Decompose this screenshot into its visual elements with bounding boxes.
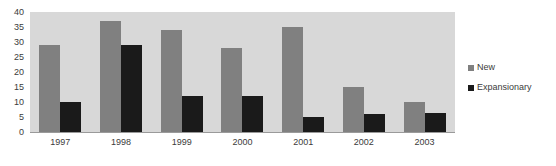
bar-group [152, 12, 212, 132]
x-axis-tick-label: 1999 [152, 136, 212, 148]
y-axis-tick-label: 5 [0, 113, 24, 122]
legend: NewExpansionary [468, 63, 556, 103]
x-axis-tick-label: 2003 [395, 136, 455, 148]
bar[interactable] [242, 96, 263, 132]
x-axis: 1997199819992000200120022003 [30, 136, 455, 154]
bar[interactable] [282, 27, 303, 132]
x-axis-tick-label: 1997 [30, 136, 90, 148]
bar[interactable] [303, 117, 324, 132]
bar-group [395, 12, 455, 132]
y-axis-tick-label: 15 [0, 83, 24, 92]
bar-group [91, 12, 151, 132]
x-axis-tick-label: 1998 [91, 136, 151, 148]
x-axis-tick-label: 2000 [212, 136, 272, 148]
y-axis-tick-label: 10 [0, 98, 24, 107]
bar-chart: 0510152025303540 19971998199920002001200… [0, 0, 556, 166]
x-axis-baseline [30, 132, 455, 133]
y-axis-tick-label: 30 [0, 38, 24, 47]
legend-entry[interactable]: Expansionary [468, 83, 556, 92]
plot-area [30, 12, 455, 132]
bar[interactable] [60, 102, 81, 132]
bar[interactable] [404, 102, 425, 132]
bar[interactable] [121, 45, 142, 132]
y-axis-tick-label: 40 [0, 8, 24, 17]
bar-group [273, 12, 333, 132]
bar[interactable] [161, 30, 182, 132]
bar-group [30, 12, 90, 132]
y-axis: 0510152025303540 [0, 12, 28, 132]
bars-layer [30, 12, 455, 132]
legend-label: New [477, 63, 495, 72]
bar[interactable] [39, 45, 60, 132]
bar-group [212, 12, 272, 132]
y-axis-tick-label: 35 [0, 23, 24, 32]
bar[interactable] [343, 87, 364, 132]
bar[interactable] [100, 21, 121, 132]
legend-swatch-icon [468, 65, 474, 71]
bar-group [334, 12, 394, 132]
legend-label: Expansionary [477, 83, 532, 92]
x-axis-tick-label: 2002 [334, 136, 394, 148]
y-axis-tick-label: 20 [0, 68, 24, 77]
legend-swatch-icon [468, 85, 474, 91]
x-axis-tick-label: 2001 [273, 136, 333, 148]
bar[interactable] [182, 96, 203, 132]
bar[interactable] [425, 113, 446, 133]
bar[interactable] [364, 114, 385, 132]
y-axis-tick-label: 25 [0, 53, 24, 62]
bar[interactable] [221, 48, 242, 132]
legend-entry[interactable]: New [468, 63, 556, 72]
y-axis-tick-label: 0 [0, 128, 24, 137]
